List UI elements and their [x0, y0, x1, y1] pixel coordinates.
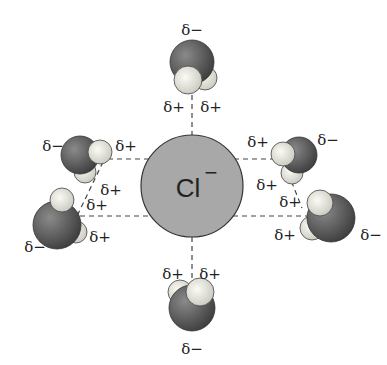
label-right-top-positive-a: δ+ [247, 133, 269, 151]
label-top-negative: δ− [181, 21, 203, 39]
label-left-top-positive-a: δ+ [115, 137, 137, 155]
label-right-bottom-positive-b: δ+ [274, 226, 296, 244]
label-right-bottom-positive-a: δ+ [279, 193, 301, 211]
label-left-bottom-positive-a: δ+ [86, 196, 108, 214]
label-right-bottom-negative: δ− [360, 226, 382, 244]
label-bottom-positive-left: δ+ [162, 265, 184, 283]
label-top-positive-left: δ+ [163, 98, 185, 116]
water-molecule-left-top [61, 136, 112, 183]
water-molecule-right-bottom [300, 190, 355, 242]
chloride-hydration-diagram: Cl − δ− δ+ δ+ δ− [0, 0, 387, 365]
label-bottom-positive-right: δ+ [199, 265, 221, 283]
label-left-bottom-positive-b: δ+ [89, 228, 111, 246]
water-molecule-top [170, 40, 217, 94]
label-right-top-positive-b: δ+ [256, 176, 278, 194]
chloride-ion: Cl − [141, 135, 243, 237]
svg-text:Cl: Cl [176, 173, 201, 203]
label-top-positive-right: δ+ [200, 98, 222, 116]
water-molecule-right-top [271, 137, 317, 184]
svg-text:−: − [205, 160, 218, 185]
label-right-top-negative: δ− [317, 131, 339, 149]
label-left-top-negative: δ− [42, 137, 64, 155]
label-bottom-negative: δ− [181, 340, 203, 358]
water-molecule-bottom [168, 278, 215, 331]
label-left-bottom-negative: δ− [24, 238, 46, 256]
